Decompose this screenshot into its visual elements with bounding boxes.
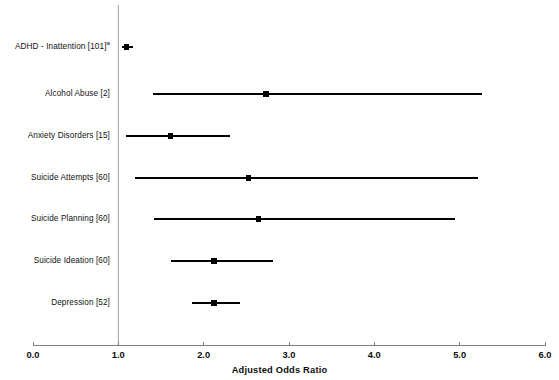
odds-ratio-marker [246, 175, 251, 180]
x-axis-tick-label: 0.0 [27, 350, 40, 360]
odds-ratio-marker [211, 300, 216, 305]
x-axis-tick-label: 1.0 [112, 350, 125, 360]
x-axis-tick-label: 6.0 [539, 350, 552, 360]
x-axis-group [33, 342, 545, 346]
category-label: Suicide Planning [60] [0, 214, 110, 224]
confidence-interval-group [122, 47, 482, 303]
odds-ratio-marker-group [124, 44, 268, 305]
x-axis-title: Adjusted Odds Ratio [0, 365, 559, 375]
category-label: Alcohol Abuse [2] [0, 89, 110, 99]
category-label: Anxiety Disorders [15] [0, 131, 110, 141]
category-label: ADHD - Inattention [101]a [0, 42, 110, 52]
x-axis-tick-label: 2.0 [197, 350, 210, 360]
forest-plot-chart: ADHD - Inattention [101]aAlcohol Abuse [… [0, 0, 559, 380]
category-label: Depression [52] [0, 298, 110, 308]
label-footnote-marker: a [107, 40, 110, 46]
odds-ratio-marker [168, 133, 173, 138]
category-label: Suicide Ideation [60] [0, 256, 110, 266]
odds-ratio-marker [211, 258, 216, 263]
category-label: Suicide Attempts [60] [0, 173, 110, 183]
odds-ratio-marker [256, 216, 261, 221]
odds-ratio-marker [263, 91, 268, 96]
odds-ratio-marker [124, 44, 129, 49]
x-axis-tick-label: 3.0 [283, 350, 296, 360]
forest-plot-canvas [0, 0, 559, 380]
x-axis-tick-label: 4.0 [368, 350, 381, 360]
x-axis-tick-label: 5.0 [453, 350, 466, 360]
